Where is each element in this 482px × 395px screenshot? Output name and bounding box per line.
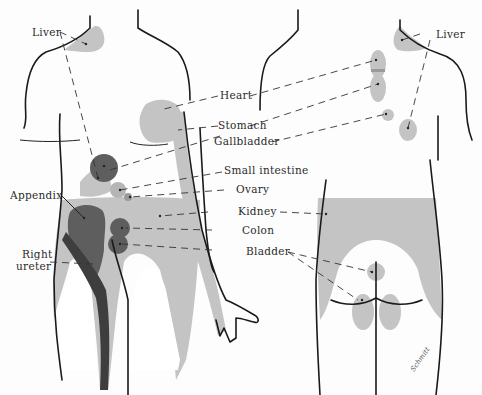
label-kidney: Kidney (238, 205, 277, 217)
right-buttock-area (379, 294, 401, 330)
liver-back-lower-area (399, 119, 417, 141)
liver-front-area (64, 26, 104, 52)
gallbladder-back-area (382, 109, 394, 121)
label-ovary: Ovary (236, 183, 269, 195)
front-figure (20, 10, 258, 395)
label-bladder: Bladder (246, 245, 291, 257)
label-colon: Colon (242, 224, 274, 236)
back-left-shoulder-outline (260, 10, 298, 110)
label-right-ureter-line2: ureter (16, 260, 52, 272)
label-liver-front: Liver (32, 26, 62, 38)
label-gallbladder: Gallbladder (214, 135, 280, 147)
heart-back-band (371, 69, 385, 72)
back-figure (260, 10, 472, 395)
label-liver-back: Liver (436, 28, 466, 40)
small-intestine-area (110, 182, 126, 198)
label-heart: Heart (220, 89, 253, 101)
stomach-back-area (370, 74, 386, 102)
label-appendix: Appendix (9, 189, 62, 201)
front-right-shoulder-outline (138, 10, 190, 100)
label-small-intestine: Small intestine (224, 164, 308, 176)
front-chest-line (20, 140, 80, 142)
gallbladder-area (90, 154, 118, 182)
referred-pain-diagram: Liver Liver Heart Stomach Gallbladder Sm… (0, 0, 482, 395)
diagram-svg: Liver Liver Heart Stomach Gallbladder Sm… (0, 0, 482, 395)
heart-back-area (370, 50, 386, 78)
label-right-ureter-line1: Right (22, 248, 53, 260)
label-stomach: Stomach (218, 119, 267, 131)
artist-signature: Schmitt (409, 346, 432, 373)
